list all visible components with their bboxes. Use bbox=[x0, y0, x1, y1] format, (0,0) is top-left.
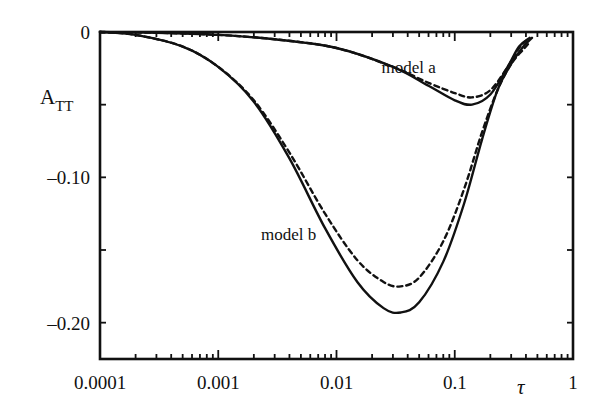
y-axis-label: ATT bbox=[40, 85, 74, 114]
y-tick-label: 0 bbox=[81, 22, 91, 43]
x-tick-label: 1 bbox=[568, 372, 578, 393]
y-axis-ticks: 0–0.10–0.20 bbox=[46, 22, 573, 334]
data-series bbox=[100, 32, 532, 313]
x-axis-label: τ bbox=[517, 375, 526, 399]
x-axis-ticks: 0.00010.0010.010.11 bbox=[74, 32, 578, 393]
chart-canvas: 0.00010.0010.010.11 0–0.10–0.20 model am… bbox=[0, 0, 606, 412]
curve-label: model b bbox=[261, 225, 316, 244]
curve-label: model a bbox=[381, 58, 436, 77]
y-tick-label: –0.20 bbox=[46, 313, 90, 334]
y-tick-label: –0.10 bbox=[46, 167, 90, 188]
solid-curve bbox=[100, 32, 530, 105]
x-tick-label: 0.0001 bbox=[74, 372, 126, 393]
dashed-curve bbox=[100, 32, 530, 287]
x-tick-label: 0.001 bbox=[197, 372, 240, 393]
solid-curve bbox=[100, 32, 532, 313]
x-tick-label: 0.1 bbox=[443, 372, 467, 393]
x-tick-label: 0.01 bbox=[320, 372, 353, 393]
